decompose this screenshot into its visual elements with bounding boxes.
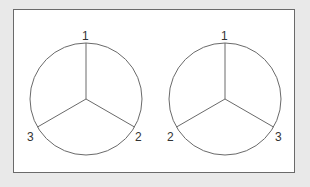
right-spoke-2 [177, 99, 226, 127]
left-label-1: 1 [82, 29, 89, 43]
right-label-1: 1 [221, 29, 228, 43]
left-label-2: 2 [135, 130, 142, 144]
left-spoke-3 [38, 99, 87, 127]
left-spoke-2 [86, 99, 135, 127]
right-circle-diagram [169, 43, 281, 155]
left-label-3: 3 [27, 130, 34, 144]
diagram-canvas: 1 2 3 1 2 3 [0, 0, 310, 187]
left-circle-diagram [30, 43, 142, 155]
right-label-2: 2 [167, 130, 174, 144]
right-label-3: 3 [275, 130, 282, 144]
right-spoke-3 [225, 99, 274, 127]
